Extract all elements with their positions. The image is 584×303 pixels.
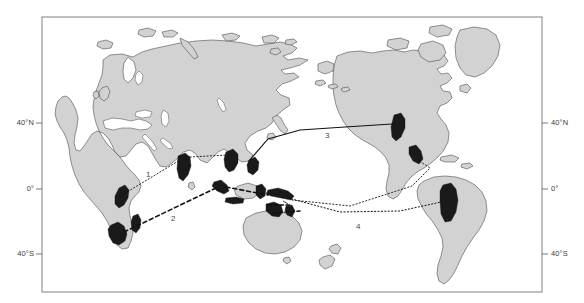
axis-label-right-40s: 40°S [551,249,584,258]
axis-label-left-0: 0° [0,184,34,193]
axis-label-left-40s: 40°S [0,249,34,258]
axis-label-left-40n: 40°N [0,118,34,127]
map-canvas [0,0,584,303]
route-label-2: 2 [171,214,175,223]
route-label-3: 3 [325,131,329,140]
route-label-4: 4 [356,222,360,231]
route-label-1: 1 [146,170,150,179]
axis-label-right-40n: 40°N [551,118,584,127]
axis-label-right-0: 0° [551,184,584,193]
world-map-figure: 40°N 0° 40°S 40°N 0° 40°S 1 2 3 4 [0,0,584,303]
